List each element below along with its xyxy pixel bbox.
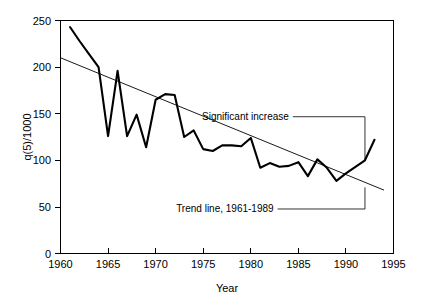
y-axis-title: q(5)/1000	[21, 113, 33, 160]
x-axis-ticks	[61, 248, 394, 254]
x-tick-label-1995: 1995	[381, 258, 405, 270]
y-tick-label-100: 100	[33, 154, 51, 166]
chart-container: 0 50 100 150 200 250 1960 1965 1970 1975…	[0, 0, 421, 304]
plot-area-border	[61, 21, 394, 254]
x-axis-title: Year	[216, 282, 239, 294]
x-tick-label-1980: 1980	[239, 258, 263, 270]
significant-increase-leader-line	[293, 117, 365, 161]
x-axis-tick-labels: 1960 1965 1970 1975 1980 1985 1990 1995	[48, 258, 405, 270]
x-tick-label-1965: 1965	[96, 258, 120, 270]
y-tick-label-250: 250	[33, 15, 51, 27]
data-series-line	[70, 27, 374, 181]
x-tick-label-1975: 1975	[191, 258, 215, 270]
annotation-significant-increase: Significant increase	[202, 111, 289, 122]
x-tick-label-1970: 1970	[143, 258, 167, 270]
y-tick-label-50: 50	[39, 201, 51, 213]
plot-frame	[61, 21, 394, 254]
y-tick-label-150: 150	[33, 108, 51, 120]
x-tick-label-1990: 1990	[334, 258, 358, 270]
y-axis-tick-labels: 0 50 100 150 200 250	[33, 15, 51, 260]
y-tick-label-200: 200	[33, 61, 51, 73]
line-chart: 0 50 100 150 200 250 1960 1965 1970 1975…	[0, 0, 421, 304]
annotation-trend-line: Trend line, 1961-1989	[176, 203, 274, 214]
x-tick-label-1985: 1985	[286, 258, 310, 270]
trend-line-leader-line	[278, 187, 365, 209]
y-axis-ticks	[55, 21, 61, 254]
x-tick-label-1960: 1960	[48, 258, 72, 270]
